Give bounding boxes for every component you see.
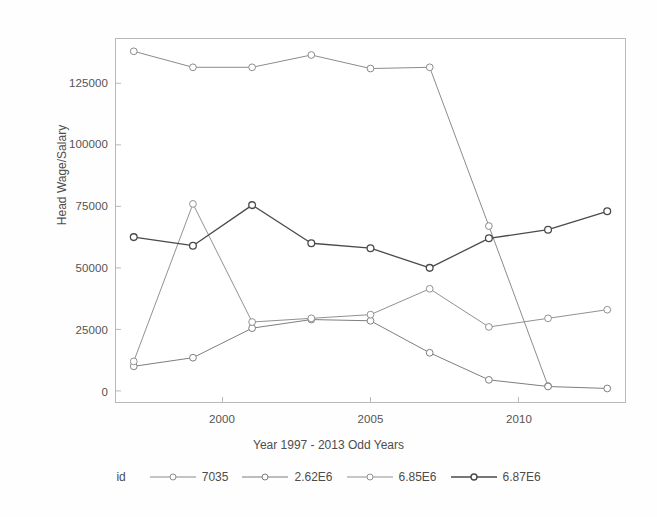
legend-item-6.85E6[interactable]: 6.85E6	[347, 470, 437, 484]
data-point-marker	[426, 285, 433, 292]
data-point-marker	[367, 311, 374, 318]
data-point-marker	[367, 65, 374, 72]
data-point-marker	[190, 64, 197, 71]
y-axis-title: Head Wage/Salary	[55, 75, 69, 275]
legend-line-marker-icon	[242, 472, 288, 482]
data-point-marker	[130, 234, 137, 241]
plot-canvas	[116, 39, 625, 402]
data-point-marker	[190, 354, 197, 361]
data-point-marker	[308, 240, 315, 247]
legend-line-marker-icon	[451, 472, 497, 482]
data-point-marker	[367, 245, 374, 252]
x-tick-label: 2000	[209, 413, 235, 425]
data-point-marker	[308, 52, 315, 59]
y-tick-label: 25000	[20, 324, 108, 336]
y-tick-label: 0	[20, 386, 108, 398]
legend-item-label: 6.87E6	[503, 470, 541, 484]
series-line	[134, 205, 607, 268]
legend-title: id	[116, 470, 125, 484]
data-point-marker	[130, 48, 137, 55]
series-6.85E6	[130, 201, 610, 365]
data-point-marker	[130, 358, 137, 365]
data-point-marker	[545, 226, 552, 233]
data-point-marker	[426, 349, 433, 356]
line-chart-figure: 0250005000075000100000125000 20002005201…	[0, 0, 657, 517]
plot-area	[115, 38, 626, 403]
data-point-marker	[604, 306, 611, 313]
legend-line-marker-icon	[347, 472, 393, 482]
data-point-marker	[604, 385, 611, 392]
series-7035	[130, 48, 551, 389]
data-point-marker	[308, 315, 315, 322]
legend-item-7035[interactable]: 7035	[150, 470, 229, 484]
legend-item-6.87E6[interactable]: 6.87E6	[451, 470, 541, 484]
legend-line-marker-icon	[150, 472, 196, 482]
data-point-marker	[249, 202, 256, 209]
data-point-marker	[426, 64, 433, 71]
legend-item-label: 7035	[202, 470, 229, 484]
data-point-marker	[190, 201, 197, 208]
legend-item-2.62E6[interactable]: 2.62E6	[242, 470, 332, 484]
series-2.62E6	[130, 316, 610, 392]
x-tick-label: 2005	[358, 413, 384, 425]
x-tick-label: 2010	[506, 413, 532, 425]
x-axis-title: Year 1997 - 2013 Odd Years	[0, 438, 657, 452]
data-point-marker	[485, 235, 492, 242]
series-line	[134, 204, 607, 362]
series-6.87E6	[130, 202, 610, 272]
data-point-marker	[485, 223, 492, 230]
series-line	[134, 51, 548, 386]
data-point-marker	[249, 319, 256, 326]
data-point-marker	[485, 376, 492, 383]
data-point-marker	[485, 324, 492, 331]
data-point-marker	[545, 315, 552, 322]
data-point-marker	[426, 264, 433, 271]
legend-item-label: 6.85E6	[399, 470, 437, 484]
chart-legend: id 70352.62E66.85E66.87E6	[0, 470, 657, 484]
data-point-marker	[545, 383, 552, 390]
data-point-marker	[604, 208, 611, 215]
data-point-marker	[249, 64, 256, 71]
data-point-marker	[190, 242, 197, 249]
legend-item-label: 2.62E6	[294, 470, 332, 484]
